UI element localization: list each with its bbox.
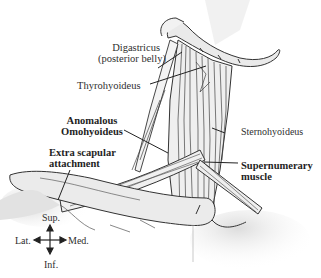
compass-lat: Lat. bbox=[15, 235, 31, 246]
label-anomalous-line1: Anomalous bbox=[52, 115, 132, 126]
label-anomalous-line2: Omohyoideus bbox=[52, 126, 132, 137]
label-thyrohyoideus: Thyrohyoideus bbox=[77, 80, 141, 91]
label-anomalous-omohyoideus: Anomalous Omohyoideus bbox=[52, 115, 132, 137]
compass-inf: Inf. bbox=[44, 259, 58, 270]
label-supernumerary-muscle: Supernumerary muscle bbox=[241, 160, 313, 182]
orientation-compass-arrows bbox=[34, 225, 66, 254]
label-digastricus: Digastricus (posterior belly) bbox=[98, 42, 160, 64]
compass-med: Med. bbox=[68, 235, 89, 246]
label-sternohyoideus: Sternohyoideus bbox=[241, 126, 303, 137]
compass-sup: Sup. bbox=[42, 212, 60, 223]
label-supernumerary-line2: muscle bbox=[241, 171, 313, 182]
label-extra-line2: attachment bbox=[49, 158, 116, 169]
label-digastricus-line2: (posterior belly) bbox=[98, 53, 160, 64]
label-digastricus-line1: Digastricus bbox=[98, 42, 160, 53]
label-extra-scapular-attachment: Extra scapular attachment bbox=[49, 147, 116, 169]
label-extra-line1: Extra scapular bbox=[49, 147, 116, 158]
label-supernumerary-line1: Supernumerary bbox=[241, 160, 313, 171]
anatomy-illustration bbox=[0, 0, 321, 278]
